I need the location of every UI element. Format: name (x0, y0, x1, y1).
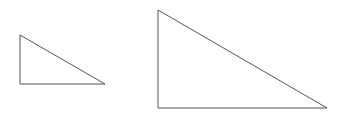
triangles-diagram (0, 0, 342, 118)
large-right-triangle (158, 10, 327, 108)
diagram-canvas (0, 0, 342, 118)
small-right-triangle (20, 35, 105, 84)
